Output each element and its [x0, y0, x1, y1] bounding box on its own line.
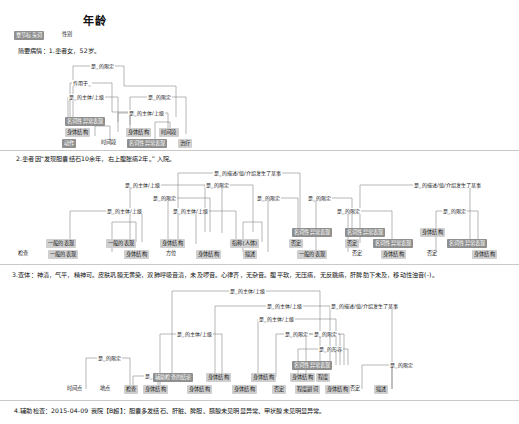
- entity-node[interactable]: 一般的表现: [297, 250, 327, 259]
- arc-label: 作用于_: [72, 80, 92, 86]
- entity-node[interactable]: 身体结构: [160, 239, 185, 248]
- entity-node[interactable]: 名词性异常表现: [65, 117, 105, 126]
- entity-node[interactable]: 检查: [124, 385, 138, 394]
- arc-label: 是_的限定: [442, 208, 467, 214]
- entity-node[interactable]: 身体结构: [206, 373, 231, 382]
- arc-label: 是_的主体/上级: [68, 94, 105, 100]
- arc-label: 是_的限定: [313, 331, 338, 337]
- arc-label: 是_的主体/上级: [176, 331, 213, 337]
- section-divider: [0, 264, 519, 265]
- section-divider: [0, 400, 519, 401]
- arc-label: 是_的限定: [256, 195, 281, 201]
- arc-label: 是_的限定: [147, 94, 172, 100]
- entity-node[interactable]: 身体结构: [381, 250, 406, 259]
- entity-node[interactable]: 描述: [243, 250, 257, 259]
- entity-node[interactable]: 辅助检查的结论: [153, 373, 193, 382]
- entity-node[interactable]: 身体结构: [251, 373, 276, 382]
- entity-node[interactable]: 一般的表现: [106, 239, 136, 248]
- arc-label: 是_的限定: [389, 362, 414, 368]
- entity-node[interactable]: 地点: [100, 385, 110, 392]
- entity-node[interactable]: 指称(人体): [230, 239, 259, 248]
- entity-node[interactable]: 否定: [427, 250, 437, 257]
- entity-node[interactable]: 检查: [18, 250, 28, 257]
- arc-label: 是_的主体/上级: [128, 110, 165, 116]
- page-title: 年龄: [83, 12, 106, 28]
- section-divider: [0, 150, 519, 151]
- sentence-s3[interactable]: 3.查体：神清，气平，精神可。皮肤巩膜无黄染，双肺呼吸音清，未及啰音。心律齐，无…: [12, 270, 438, 279]
- entity-node[interactable]: 名词性异常表现: [292, 361, 332, 370]
- arc-label: 是_的主体/上级: [266, 303, 303, 309]
- entity-node[interactable]: 否定: [345, 239, 359, 248]
- entity-node[interactable]: 身体结构: [290, 373, 315, 382]
- entity-node[interactable]: 身体结构: [143, 385, 168, 394]
- arc-label: 是_的限定: [97, 355, 122, 361]
- entity-node[interactable]: 名词性异常表现: [447, 239, 487, 248]
- sentence-s2[interactable]: 2.患者因“发现胆囊结石10余年，右上腹胀痛2年。” 入院。: [16, 154, 176, 163]
- arc-label: 是_的限定: [205, 182, 230, 188]
- annotation-canvas: 年龄 章节标头词性别简要病情: [0, 0, 519, 424]
- entity-node[interactable]: 身体结构: [124, 250, 149, 259]
- sentence-s4[interactable]: 4.辅助检查：2015-04-09 我院【B超】：胆囊多发结石、肝脏、脾胆、胰腺…: [14, 406, 326, 415]
- entity-node[interactable]: 身体结构: [196, 250, 221, 259]
- entity-node[interactable]: 名词性异常表现: [373, 239, 413, 248]
- entity-node[interactable]: 身体结构: [126, 128, 151, 137]
- arc-label: 是_的描述/值/介绍发生了某事: [213, 170, 282, 176]
- arc-label: 是_的形容: [318, 346, 343, 352]
- header-chip-1[interactable]: 性别: [62, 31, 72, 38]
- arc-label: 是_的限定: [284, 331, 309, 337]
- entity-node[interactable]: 一般的表现: [48, 250, 78, 259]
- entity-node[interactable]: 时间点: [67, 385, 83, 392]
- arc-label: 是_的主体/上级: [172, 208, 209, 214]
- entity-node[interactable]: 身体结构: [420, 228, 445, 237]
- entity-node[interactable]: 时间段: [101, 139, 117, 146]
- entity-node[interactable]: 方位: [166, 250, 176, 257]
- entity-node[interactable]: 否定: [272, 385, 286, 394]
- arc-label: 是_的主体/上级: [258, 316, 295, 322]
- entity-node[interactable]: 时间段: [159, 128, 179, 137]
- entity-node[interactable]: 身体结构: [232, 385, 257, 394]
- entity-node[interactable]: 治疗: [178, 139, 192, 148]
- entity-node[interactable]: 名词性异常表现: [127, 139, 167, 148]
- entity-node[interactable]: 身体结构: [325, 385, 350, 394]
- entity-node[interactable]: 身体结构: [65, 128, 90, 137]
- arc-label: 是_的限定: [90, 63, 115, 69]
- entity-node[interactable]: 程度: [316, 373, 330, 382]
- entity-node[interactable]: 一般的表现: [46, 239, 76, 248]
- arc-label: 是_的描述/值/介绍发生了某事: [330, 303, 399, 309]
- arc-label: 是_的主体/上级: [124, 182, 161, 188]
- entity-node[interactable]: 身体结构: [472, 250, 497, 259]
- entity-node[interactable]: 程度副词: [295, 385, 320, 394]
- arc-label: 是_的限定: [152, 195, 177, 201]
- entity-node[interactable]: 否定: [350, 385, 360, 392]
- entity-node[interactable]: 身体结构: [187, 385, 212, 394]
- entity-node[interactable]: 描述: [374, 385, 388, 394]
- entity-node[interactable]: 动作: [62, 139, 76, 148]
- header-chip-0[interactable]: 章节标头词: [14, 31, 44, 40]
- arc-label: 是_的描述/值/介绍发生了某事: [413, 182, 482, 188]
- arc-label: 是_的主体/上级: [106, 208, 143, 214]
- arc-label: 是_的主体/上级: [229, 288, 266, 294]
- entity-node[interactable]: 否定: [352, 250, 362, 257]
- sentence-s1[interactable]: 简要病情：1.患者女，52岁。: [18, 46, 100, 55]
- entity-node[interactable]: 名词性异常表现: [345, 228, 385, 237]
- arc-label: 是_的限定: [307, 195, 332, 201]
- entity-node[interactable]: 名词性异常表现: [292, 228, 332, 237]
- entity-node[interactable]: 否定: [289, 239, 303, 248]
- arc-label: 是_的限定: [336, 208, 361, 214]
